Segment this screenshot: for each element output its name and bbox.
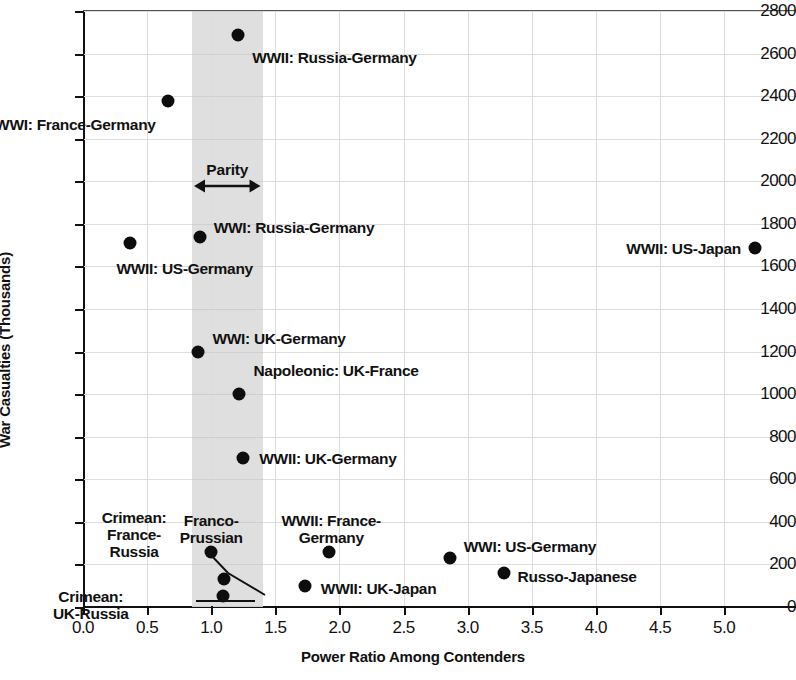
x-axis-tick-label: 3.5: [502, 618, 562, 638]
data-point-marker: [232, 29, 245, 42]
data-point-label: WWII: UK-Japan: [321, 579, 437, 596]
data-point-label: Crimean: UK-Russia: [53, 588, 129, 622]
x-axis-title: Power Ratio Among Contenders: [83, 648, 743, 665]
x-axis-tick-mark: [211, 606, 213, 615]
x-axis-tick-mark: [339, 606, 341, 615]
x-axis-tick-mark: [275, 606, 277, 615]
scatter-chart-figure: War Casualties (Thousands) Power Ratio A…: [0, 0, 796, 680]
data-point-marker: [205, 545, 218, 558]
x-axis-tick-mark: [724, 606, 726, 615]
data-point-label: Crimean: France- Russia: [102, 509, 167, 560]
x-axis-tick-label: 5.0: [694, 618, 754, 638]
data-point-label: WWII: Russia-Germany: [252, 49, 417, 66]
data-point-label: WWII: US-Germany: [116, 260, 252, 277]
data-point-label: Russo-Japanese: [518, 567, 637, 584]
data-point-label: WWII: France- Germany: [281, 512, 380, 546]
x-axis-tick-mark: [660, 606, 662, 615]
parity-label: Parity: [206, 161, 248, 179]
data-point-label: WWI: UK-Germany: [212, 329, 345, 346]
data-point-marker: [161, 95, 174, 108]
data-point-label: Franco- Prussian: [180, 512, 243, 546]
x-axis-tick-label: 2.0: [309, 618, 369, 638]
data-point-marker: [216, 590, 229, 603]
x-axis-tick-mark: [532, 606, 534, 615]
data-point-label: WWI: France-Germany: [0, 116, 156, 133]
data-point-marker: [237, 452, 250, 465]
x-axis-tick-label: 4.0: [566, 618, 626, 638]
x-axis-tick-mark: [147, 606, 149, 615]
data-point-label: WWI: Russia-Germany: [214, 218, 375, 235]
data-points-layer: WWII: Russia-GermanyWWI: France-GermanyW…: [83, 11, 796, 607]
data-point-marker: [193, 230, 206, 243]
x-axis-tick-label: 2.5: [374, 618, 434, 638]
x-axis-tick-label: 1.5: [245, 618, 305, 638]
data-point-marker: [233, 388, 246, 401]
x-axis-tick-mark: [404, 606, 406, 615]
data-point-marker: [443, 552, 456, 565]
x-axis-tick-mark: [468, 606, 470, 615]
data-point-marker: [218, 573, 231, 586]
data-point-marker: [748, 242, 761, 255]
x-axis-tick-label: 1.0: [181, 618, 241, 638]
data-point-label: WWII: UK-Germany: [259, 450, 396, 467]
data-point-label: WWII: US-Japan: [626, 240, 741, 257]
data-point-marker: [192, 345, 205, 358]
x-axis-tick-label: 3.0: [438, 618, 498, 638]
data-point-label: WWI: US-Germany: [464, 538, 596, 555]
x-axis-tick-label: 4.5: [630, 618, 690, 638]
y-axis-title: War Casualties (Thousands): [0, 200, 13, 500]
x-axis-tick-mark: [596, 606, 598, 615]
data-point-label: Napoleonic: UK-France: [253, 362, 418, 379]
data-point-marker: [323, 545, 336, 558]
data-point-marker: [124, 237, 137, 250]
data-point-marker: [298, 579, 311, 592]
data-point-marker: [497, 566, 510, 579]
